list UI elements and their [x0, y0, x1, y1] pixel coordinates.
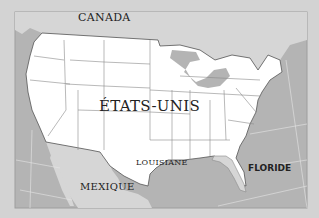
- label-floride: FLORIDE: [248, 163, 291, 173]
- label-united-states: ÉTATS-UNIS: [99, 97, 200, 115]
- label-canada: CANADA: [78, 11, 131, 24]
- label-mexique: MEXIQUE: [80, 181, 135, 192]
- label-louisiane: LOUISIANE: [136, 158, 188, 167]
